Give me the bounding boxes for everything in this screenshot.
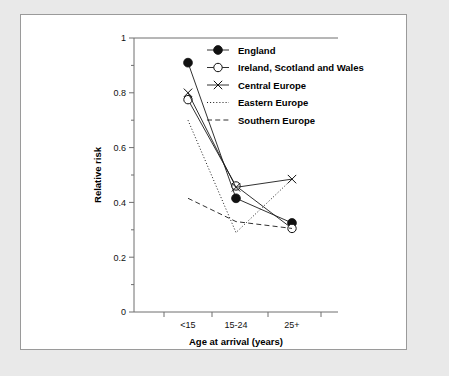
legend-label: England xyxy=(238,45,276,56)
figure-panel: 00.20.40.60.81<1515-2425+Age at arrival … xyxy=(20,14,407,350)
relative-risk-line-chart: 00.20.40.60.81<1515-2425+Age at arrival … xyxy=(21,15,406,349)
x-tick-label: <15 xyxy=(180,320,195,330)
y-axis-title: Relative risk xyxy=(92,146,103,203)
y-tick-label: 0 xyxy=(121,307,126,317)
series-polyline xyxy=(188,198,292,228)
data-point-marker xyxy=(232,194,241,203)
y-tick-label: 0.2 xyxy=(113,253,126,263)
legend: EnglandIreland, Scotland and WalesCentra… xyxy=(207,45,364,126)
legend-label: Southern Europe xyxy=(238,115,315,126)
chart-svg: 00.20.40.60.81<1515-2425+Age at arrival … xyxy=(21,15,406,349)
series-5 xyxy=(188,198,292,228)
legend-item-2[interactable]: Ireland, Scotland and Wales xyxy=(207,62,364,73)
x-tick-label: 25+ xyxy=(284,320,299,330)
legend-label: Central Europe xyxy=(238,80,306,91)
x-tick-label: 15-24 xyxy=(224,320,247,330)
legend-label: Eastern Europe xyxy=(238,97,308,108)
y-tick-label: 0.8 xyxy=(113,88,126,98)
axes xyxy=(134,38,338,312)
data-point-marker xyxy=(232,182,240,190)
legend-label: Ireland, Scotland and Wales xyxy=(238,62,364,73)
legend-marker-open-circle-icon xyxy=(214,63,222,71)
legend-item-4[interactable]: Eastern Europe xyxy=(207,97,308,108)
x-axis-ticks: <1515-2425+ xyxy=(164,312,321,330)
y-axis-ticks: 00.20.40.60.81 xyxy=(113,33,134,317)
x-axis-title: Age at arrival (years) xyxy=(189,336,283,347)
legend-marker-filled-circle-icon xyxy=(214,46,223,55)
figure-frame: 00.20.40.60.81<1515-2425+Age at arrival … xyxy=(0,0,449,376)
y-tick-label: 0.6 xyxy=(113,143,126,153)
data-point-marker xyxy=(184,95,192,103)
legend-item-1[interactable]: England xyxy=(207,45,276,56)
legend-item-3[interactable]: Central Europe xyxy=(207,80,306,91)
y-tick-label: 0.4 xyxy=(113,198,126,208)
legend-item-5[interactable]: Southern Europe xyxy=(207,115,315,126)
data-point-marker xyxy=(184,58,193,67)
y-tick-label: 1 xyxy=(121,33,126,43)
